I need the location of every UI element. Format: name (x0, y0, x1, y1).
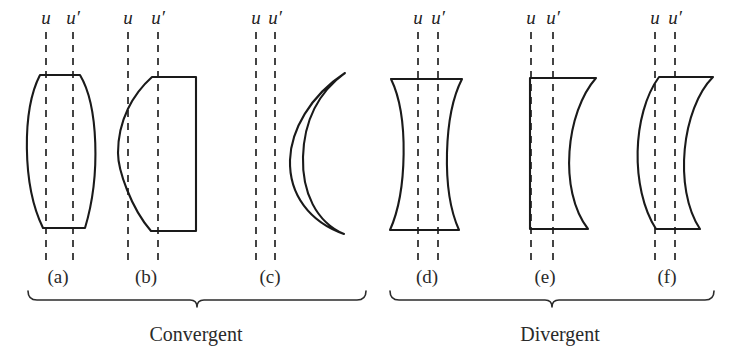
panel-label-e: (e) (534, 266, 555, 288)
axis-label-u-prime-a: u′ (66, 7, 81, 28)
lens-outline-e (530, 78, 596, 229)
lens-outline-c (290, 73, 345, 234)
lens-panel-f: uu′(f) (638, 7, 713, 288)
lens-outline-d (390, 79, 462, 230)
axis-label-u-prime-b: u′ (151, 7, 166, 28)
lens-panel-a: uu′(a) (27, 7, 96, 288)
axis-label-u-prime-e: u′ (546, 7, 561, 28)
axis-label-u-prime-c: u′ (268, 7, 283, 28)
lens-panel-e: uu′(e) (526, 7, 596, 288)
group-brace-divergent (390, 291, 714, 307)
axis-label-u-d: u (413, 7, 423, 28)
group-caption-divergent: Divergent (520, 323, 600, 346)
lens-types-figure: uu′(a)uu′(b)uu′(c)uu′(d)uu′(e)uu′(f) Con… (0, 0, 734, 349)
lens-outline-a (27, 75, 96, 228)
lens-outline-b (118, 77, 196, 231)
axis-label-u-b: u (123, 7, 133, 28)
lens-group-convergent: Convergent (28, 291, 366, 346)
panel-label-b: (b) (135, 266, 157, 288)
panel-label-f: (f) (658, 266, 677, 288)
panels-layer: uu′(a)uu′(b)uu′(c)uu′(d)uu′(e)uu′(f) (27, 7, 713, 288)
panel-label-d: (d) (416, 266, 438, 288)
axis-label-u-prime-f: u′ (668, 7, 683, 28)
panel-label-a: (a) (47, 266, 68, 288)
lens-group-divergent: Divergent (390, 291, 714, 346)
axis-label-u-c: u (251, 7, 261, 28)
figure-canvas: uu′(a)uu′(b)uu′(c)uu′(d)uu′(e)uu′(f) Con… (0, 0, 734, 349)
axis-label-u-e: u (526, 7, 536, 28)
axis-label-u-f: u (650, 7, 660, 28)
axis-label-u-a: u (41, 7, 51, 28)
group-caption-convergent: Convergent (150, 323, 243, 346)
groups-layer: ConvergentDivergent (28, 291, 714, 346)
lens-panel-c: uu′(c) (251, 7, 345, 288)
lens-panel-d: uu′(d) (390, 7, 462, 288)
panel-label-c: (c) (259, 266, 280, 288)
group-brace-convergent (28, 291, 366, 307)
lens-panel-b: uu′(b) (118, 7, 196, 288)
axis-label-u-prime-d: u′ (431, 7, 446, 28)
